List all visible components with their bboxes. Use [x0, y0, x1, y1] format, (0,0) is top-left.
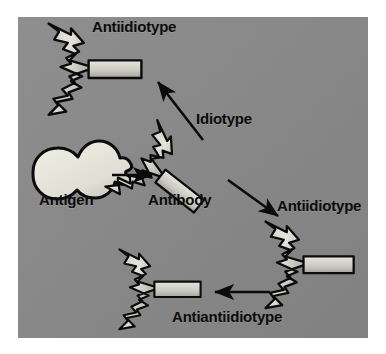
label-idiotype: Idiotype: [196, 110, 252, 127]
label-antiidiotype-right: Antiidiotype: [277, 197, 361, 214]
figure-page: Antiidiotype Idiotype Antigen Antibody A…: [0, 0, 386, 354]
antibody-shape: [105, 120, 225, 239]
label-antiantiidiotype: Antiantiidiotype: [172, 308, 282, 325]
arrow-antibody-to-antiidiotype-right: [228, 180, 278, 216]
label-antiidiotype-top: Antiidiotype: [92, 18, 176, 35]
antiidiotype-right-shape: [266, 222, 354, 309]
antiidiotype-top-shape: [49, 24, 142, 115]
diagram-artwork: [0, 0, 386, 354]
label-antigen: Antigen: [39, 191, 93, 208]
label-antibody: Antibody: [148, 191, 211, 208]
